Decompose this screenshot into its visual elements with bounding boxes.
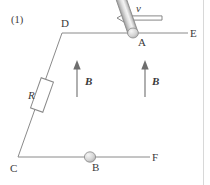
rod-end-a [128,28,139,38]
label-point-f: F [152,151,158,163]
label-point-a: A [138,36,146,48]
label-point-e: E [190,27,197,39]
label-field-b-right: B [151,75,159,87]
label-point-c: C [10,162,17,174]
physics-figure-container: (1) D E A B C F R v B B [0,0,210,185]
physics-diagram-svg: (1) D E A B C F R v B B [0,0,210,185]
label-point-d: D [61,17,69,29]
field-arrow-right-icon [141,60,148,97]
label-field-b-left: B [84,75,92,87]
conducting-rod-ab [84,0,138,162]
figure-number-label: (1) [11,14,24,26]
label-velocity-v: v [136,2,141,14]
label-resistor-r: R [27,89,35,101]
field-arrow-left-icon [73,60,80,97]
label-point-b: B [92,161,99,173]
